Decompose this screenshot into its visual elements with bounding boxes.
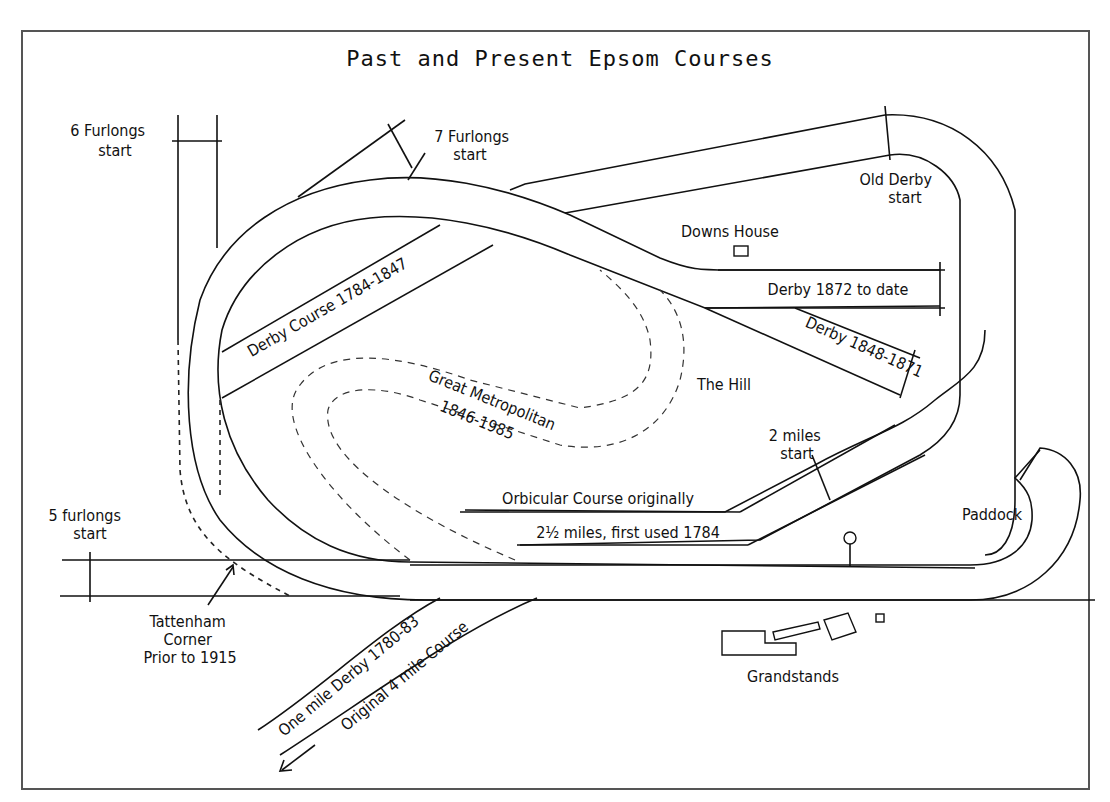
seven-furlong-rail-upper	[298, 120, 405, 197]
winning-post-icon	[844, 532, 856, 544]
label-six-furlongs: 6 Furlongs start	[70, 121, 149, 160]
tattenham-arrow-line	[208, 567, 233, 605]
label-old-derby-start: Old Derby start	[859, 170, 936, 207]
grandstand-box-icon	[824, 613, 856, 640]
label-two-miles-start: 2 miles start	[769, 426, 826, 463]
label-grandstands: Grandstands	[747, 667, 839, 686]
orbicular-rail-lower-diag	[748, 455, 925, 545]
label-tattenham-corner: Tattenham Corner Prior to 1915	[143, 612, 236, 667]
map-title: Past and Present Epsom Courses	[346, 46, 773, 71]
grandstand-narrow-icon	[773, 622, 820, 640]
label-paddock: Paddock	[962, 505, 1023, 524]
downs-house-building-icon	[734, 246, 748, 256]
seven-furlong-start-marker	[388, 124, 412, 168]
tattenham-arrow-head-icon	[226, 565, 234, 575]
grandstand-small-building-icon	[876, 614, 884, 622]
label-derby-1872: Derby 1872 to date	[768, 280, 909, 299]
label-orbicular-distance: 2½ miles, first used 1784	[536, 523, 720, 542]
derby-1784-rail-upper	[222, 225, 440, 352]
original-4-mile-arrow-line	[282, 745, 315, 770]
label-seven-furlongs: 7 Furlongs start	[434, 127, 513, 164]
label-downs-house: Downs House	[681, 222, 779, 241]
label-derby-1848: Derby 1848-1871	[803, 313, 926, 382]
label-five-furlongs: 5 furlongs start	[49, 506, 126, 543]
label-derby-course-1784: Derby Course 1784-1847	[244, 254, 411, 361]
label-orbicular-course: Orbicular Course originally	[502, 489, 694, 508]
grandstand-main-icon	[722, 631, 796, 655]
epsom-course-map: Past and Present Epsom Courses	[0, 0, 1110, 802]
paddock-curve-outer	[410, 448, 1080, 600]
tattenham-old-corner	[178, 340, 290, 596]
label-the-hill: The Hill	[696, 375, 751, 394]
